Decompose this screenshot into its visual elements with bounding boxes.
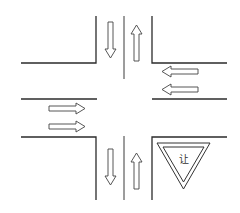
road-edge-bottom-left [21, 137, 96, 200]
arrow-up-icon-top [131, 25, 142, 61]
intersection-diagram: 让 [0, 0, 240, 213]
road-edge-top-right [152, 16, 227, 63]
arrow-up-icon-bottom [131, 153, 142, 189]
yield-sign: 让 [157, 143, 210, 189]
arrow-right-icon-west-2 [49, 121, 85, 132]
arrow-right-icon-west-1 [49, 103, 85, 114]
arrow-left-icon-east-2 [162, 84, 198, 95]
road-edge-top-left [21, 16, 96, 63]
yield-sign-text: 让 [179, 154, 189, 165]
arrow-left-icon-east-1 [162, 66, 198, 77]
arrow-down-icon-bottom [105, 149, 116, 185]
arrow-down-icon-top [105, 22, 116, 58]
